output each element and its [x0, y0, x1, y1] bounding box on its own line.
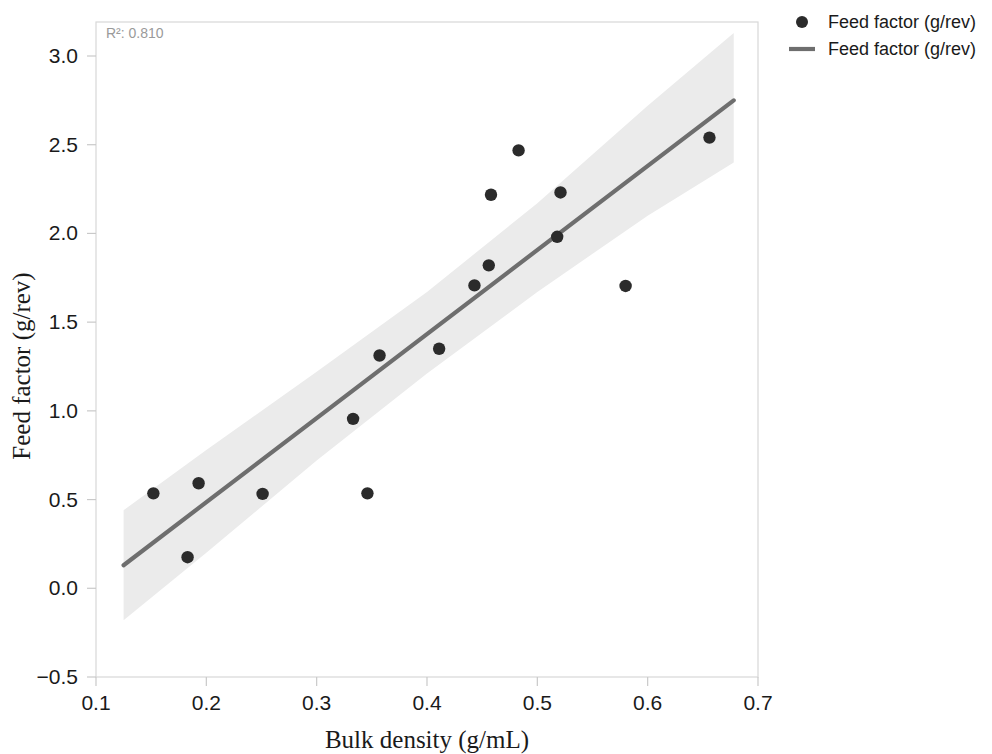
y-tick-label: 1.0 — [49, 399, 78, 422]
r-squared-annotation: R²: 0.810 — [106, 25, 164, 41]
x-tick-label: 0.6 — [633, 691, 662, 714]
regression-line — [124, 100, 734, 565]
scatter-point — [485, 189, 497, 201]
legend-marker-dot-icon — [796, 16, 808, 28]
x-tick-label: 0.4 — [412, 691, 442, 714]
y-axis-label: Feed factor (g/rev) — [8, 272, 36, 459]
x-tick-label: 0.3 — [302, 691, 331, 714]
scatter-point — [147, 487, 159, 499]
y-tick-label: 2.5 — [49, 133, 78, 156]
chart-figure: 0.10.20.30.40.50.60.7−0.50.00.51.01.52.0… — [0, 0, 992, 754]
chart-legend: Feed factor (g/rev)Feed factor (g/rev) — [789, 12, 976, 59]
legend-entry-label: Feed factor (g/rev) — [828, 39, 976, 59]
scatter-point — [181, 551, 193, 563]
scatter-point — [468, 279, 480, 291]
scatter-point — [703, 131, 715, 143]
y-tick-label: 2.0 — [49, 221, 78, 244]
scatter-point — [512, 144, 524, 156]
x-axis-label: Bulk density (g/mL) — [325, 726, 529, 754]
y-tick-label: −0.5 — [37, 665, 78, 688]
y-tick-label: 0.0 — [49, 576, 78, 599]
confidence-band — [124, 33, 734, 620]
y-tick-label: 3.0 — [49, 44, 78, 67]
y-tick-label: 1.5 — [49, 310, 78, 333]
scatter-point — [433, 343, 445, 355]
scatter-point — [347, 413, 359, 425]
scatter-point — [483, 259, 495, 271]
confidence-band-area — [124, 33, 734, 620]
scatter-point — [554, 186, 566, 198]
scatter-point — [619, 280, 631, 292]
scatter-point — [256, 488, 268, 500]
y-tick-label: 0.5 — [49, 488, 78, 511]
legend-entry-label: Feed factor (g/rev) — [828, 12, 976, 32]
scatter-point — [361, 487, 373, 499]
x-tick-label: 0.1 — [81, 691, 110, 714]
scatter-point — [551, 231, 563, 243]
x-tick-label: 0.2 — [192, 691, 221, 714]
scatter-point — [192, 477, 204, 489]
x-tick-label: 0.5 — [523, 691, 552, 714]
x-tick-label: 0.7 — [743, 691, 772, 714]
scatter-point — [373, 349, 385, 361]
scatter-plot: 0.10.20.30.40.50.60.7−0.50.00.51.01.52.0… — [0, 0, 992, 754]
regression-fit-line — [124, 100, 734, 565]
